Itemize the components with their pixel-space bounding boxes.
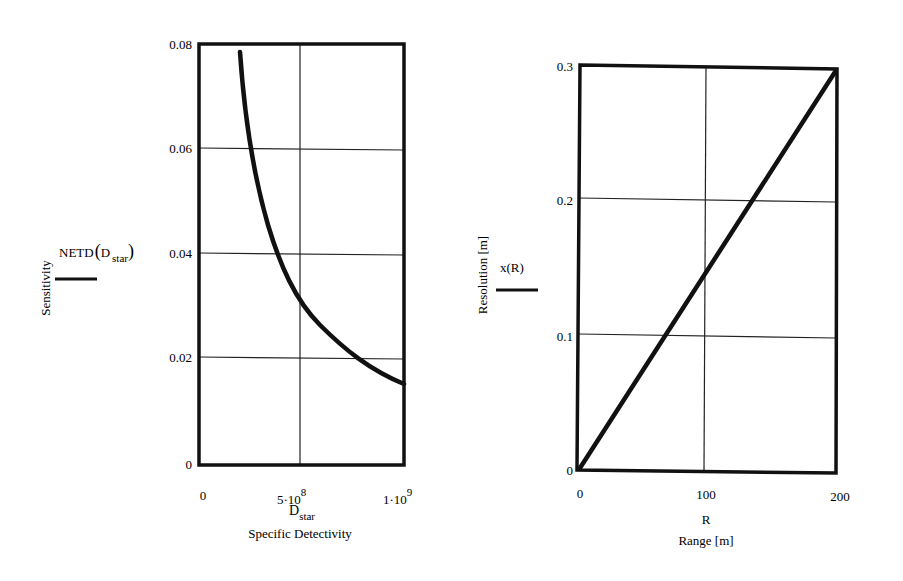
- left-y-tick-0.02: 0.02: [169, 350, 192, 365]
- right-chart: 0.3 0.2 0.1 0 0 100 200 R Range [m] Reso…: [475, 59, 850, 548]
- right-y-axis-title: Resolution [m]: [475, 236, 490, 314]
- grid-h-0.02: [199, 357, 404, 359]
- right-legend: x(R): [496, 260, 538, 290]
- right-x-tick-100: 100: [696, 487, 716, 502]
- legend-label-xR: x(R): [500, 260, 524, 275]
- figure: 0.08 0.06 0.04 0.02 0 0 5·108 1·109 Dsta…: [0, 0, 903, 581]
- left-y-axis-title: Sensitivity: [38, 260, 53, 316]
- left-x-axis-title: Specific Detectivity: [248, 526, 352, 541]
- left-y-tick-0.06: 0.06: [169, 141, 192, 156]
- left-x-tick-1e9: 1·109: [383, 486, 413, 507]
- netd-curve: [240, 52, 404, 384]
- right-y-tick-0.3: 0.3: [557, 59, 573, 74]
- right-y-tick-0: 0: [567, 463, 574, 478]
- right-y-tick-0.2: 0.2: [557, 193, 573, 208]
- left-legend: NETD(Dstar): [55, 241, 134, 279]
- right-y-tick-0.1: 0.1: [557, 329, 573, 344]
- left-y-tick-0.08: 0.08: [169, 37, 192, 52]
- right-x-tick-200: 200: [830, 489, 850, 504]
- left-y-tick-0.04: 0.04: [169, 246, 192, 261]
- left-x-variable: Dstar: [289, 503, 315, 522]
- right-x-axis-title: Range [m]: [678, 533, 733, 548]
- right-x-tick-0: 0: [577, 486, 584, 501]
- grid-h-0.04: [199, 253, 404, 255]
- grid-h-0.2: [579, 198, 836, 202]
- left-y-tick-0: 0: [186, 457, 193, 472]
- left-grid: [199, 44, 404, 465]
- left-x-tick-0: 0: [200, 488, 207, 503]
- resolution-line: [580, 72, 835, 468]
- grid-v-100: [704, 67, 706, 470]
- right-x-variable: R: [702, 512, 711, 527]
- grid-h-0.1: [579, 334, 836, 338]
- grid-h-0.06: [199, 148, 404, 150]
- legend-label-netd: NETD(Dstar): [59, 241, 134, 264]
- left-chart: 0.08 0.06 0.04 0.02 0 0 5·108 1·109 Dsta…: [38, 37, 413, 541]
